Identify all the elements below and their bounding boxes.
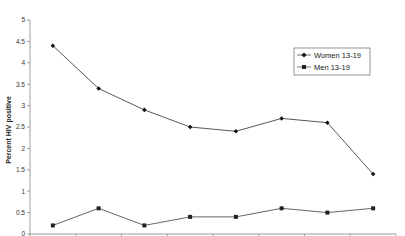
x-axis xyxy=(30,234,396,236)
series-line xyxy=(53,208,373,225)
square-marker-icon xyxy=(280,206,284,210)
square-marker-icon xyxy=(97,206,101,210)
y-tick-label: 0.5 xyxy=(16,209,25,216)
y-tick-label: 5 xyxy=(21,16,25,23)
y-tick-label: 1.5 xyxy=(16,166,25,173)
square-marker-icon xyxy=(234,215,238,219)
legend-label-men: Men 13-19 xyxy=(314,63,350,72)
line-chart: 00.511.522.533.544.55 Percent HIV positi… xyxy=(0,0,405,236)
square-marker-icon xyxy=(188,215,192,219)
square-marker-icon xyxy=(371,206,375,210)
legend: Women 13-19 Men 13-19 xyxy=(294,48,370,75)
legend-label-women: Women 13-19 xyxy=(314,51,361,60)
diamond-marker-icon xyxy=(279,116,284,121)
y-axis: 00.511.522.533.544.55 xyxy=(16,16,30,236)
diamond-marker-icon xyxy=(234,129,239,134)
y-tick-label: 3.5 xyxy=(16,81,25,88)
y-tick-label: 4 xyxy=(21,59,25,66)
y-axis-title: Percent HIV positive xyxy=(5,96,13,164)
series-men xyxy=(51,206,375,227)
diamond-marker-icon xyxy=(188,125,193,130)
y-tick-label: 2.5 xyxy=(16,123,25,130)
y-tick-label: 4.5 xyxy=(16,38,25,45)
y-tick-label: 3 xyxy=(21,102,25,109)
square-marker-icon xyxy=(51,223,55,227)
square-marker-icon xyxy=(302,65,306,69)
y-tick-label: 1 xyxy=(21,188,25,195)
square-marker-icon xyxy=(325,211,329,215)
y-tick-label: 2 xyxy=(21,145,25,152)
square-marker-icon xyxy=(142,223,146,227)
y-tick-label: 0 xyxy=(21,230,25,236)
diamond-marker-icon xyxy=(142,108,147,113)
